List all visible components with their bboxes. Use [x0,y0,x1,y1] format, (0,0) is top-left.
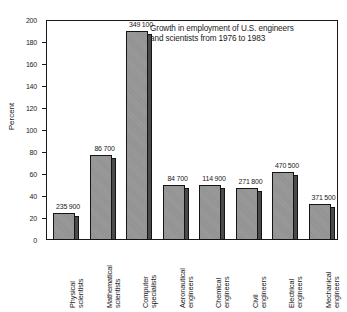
x-axis-category-label: Civilengineers [252,238,268,308]
y-tick-label: 20 [30,215,37,222]
x-axis-category-label: Computerspecialists [142,238,158,308]
y-axis: Percent 020406080100120140160180200 [0,0,46,250]
bar [236,188,258,240]
y-tick-label: 160 [26,61,37,68]
y-axis-title: Percent [7,87,16,147]
y-tick-label: 80 [30,149,37,156]
bar [272,172,294,240]
bar-value-label: 371 500 [302,194,346,202]
bar [199,185,221,240]
bar-value-label: 86 700 [83,145,127,153]
y-tick-label: 100 [26,127,37,134]
y-tick-label: 60 [30,171,37,178]
y-tick-label: 120 [26,105,37,112]
x-axis-category-line: engineers [260,238,268,308]
x-axis-category-label: Electricalengineers [288,238,304,308]
bar [90,155,112,240]
bar [309,204,331,240]
x-axis-category-line: engineers [333,238,341,308]
x-axis-category-line: scientists [114,238,122,308]
y-tick-label: 0 [33,237,37,244]
x-axis-category-line: scientists [77,238,85,308]
x-axis-category-line: engineers [187,238,195,308]
bar [126,31,148,240]
bars-layer: 235 90086 700349 10084 700114 900271 800… [46,20,338,240]
bar-value-label: 470 500 [265,162,309,170]
bar-value-label: 349 100 [119,21,163,29]
y-tick-label: 40 [30,193,37,200]
x-axis-category-line: engineers [296,238,304,308]
x-axis-category-label: Mathematicalscientists [106,238,122,308]
y-tick-label: 200 [26,17,37,24]
x-axis-category-line: engineers [223,238,231,308]
bar-value-label: 235 900 [46,203,90,211]
bar-value-label: 271 800 [229,178,273,186]
x-axis-category-label: Aeronauticalengineers [179,238,195,308]
x-axis-category-label: Mechanicalengineers [325,238,341,308]
bar [163,185,185,240]
x-axis-labels: PhysicalscientistsMathematicalscientists… [46,244,338,312]
x-axis-category-label: Chemicalengineers [215,238,231,308]
bar-chart: Percent 020406080100120140160180200 Grow… [0,0,347,312]
x-axis-category-label: Physicalscientists [69,238,85,308]
bar [53,213,75,241]
y-tick-label: 180 [26,39,37,46]
y-tick-label: 140 [26,83,37,90]
x-axis-category-line: specialists [150,238,158,308]
